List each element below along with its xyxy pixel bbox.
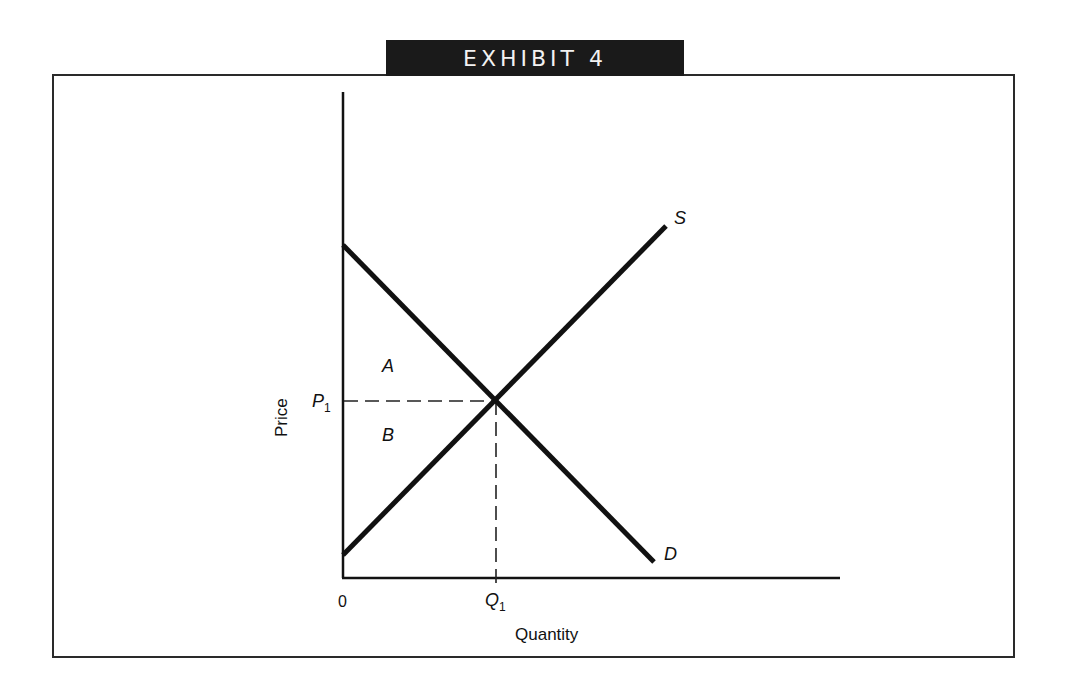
origin-label: 0 (338, 593, 347, 610)
demand-label: D (664, 544, 677, 564)
demand-curve (343, 245, 654, 562)
q1-label: Q1 (485, 590, 506, 614)
region-b-label: B (382, 425, 394, 445)
supply-curve (343, 226, 666, 555)
x-axis-title: Quantity (515, 625, 579, 644)
supply-demand-chart: S D A B P1 0 Q1 Quantity Price (0, 0, 1068, 698)
y-axis-title: Price (272, 398, 291, 437)
p1-label: P1 (312, 391, 331, 415)
region-a-label: A (381, 356, 394, 376)
supply-label: S (674, 208, 686, 228)
